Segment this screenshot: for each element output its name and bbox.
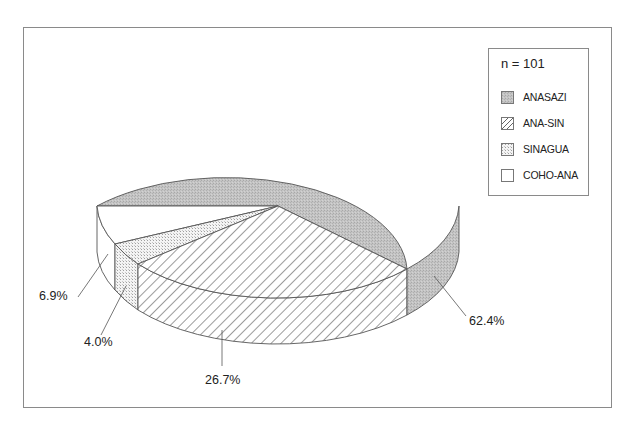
chart-legend: n = 101 ANASAZI ANA-SIN SINAGUA COHO-ANA bbox=[488, 48, 589, 196]
legend-item-coho-ana: COHO-ANA bbox=[501, 167, 578, 183]
swatch-dots-icon bbox=[501, 143, 514, 156]
swatch-gray-icon bbox=[501, 91, 514, 104]
legend-item-sinagua: SINAGUA bbox=[501, 141, 569, 157]
legend-label: COHO-ANA bbox=[523, 169, 578, 181]
swatch-white-icon bbox=[501, 169, 514, 182]
legend-item-ana-sin: ANA-SIN bbox=[501, 115, 564, 131]
legend-label: ANASAZI bbox=[523, 91, 567, 103]
legend-title: n = 101 bbox=[501, 56, 545, 71]
label-coho-ana: 6.9% bbox=[39, 289, 68, 303]
legend-label: SINAGUA bbox=[523, 143, 569, 155]
leader-line-coho-ana bbox=[78, 254, 108, 297]
swatch-hatch-icon bbox=[501, 117, 514, 130]
slice-side-anasazi bbox=[407, 206, 459, 315]
leader-line-anasazi bbox=[434, 276, 466, 316]
leader-line-sinagua bbox=[101, 286, 126, 335]
label-sinagua: 4.0% bbox=[84, 335, 113, 349]
label-ana-sin: 26.7% bbox=[205, 373, 240, 387]
label-anasazi: 62.4% bbox=[469, 314, 504, 328]
legend-label: ANA-SIN bbox=[523, 117, 564, 129]
legend-item-anasazi: ANASAZI bbox=[501, 89, 567, 105]
